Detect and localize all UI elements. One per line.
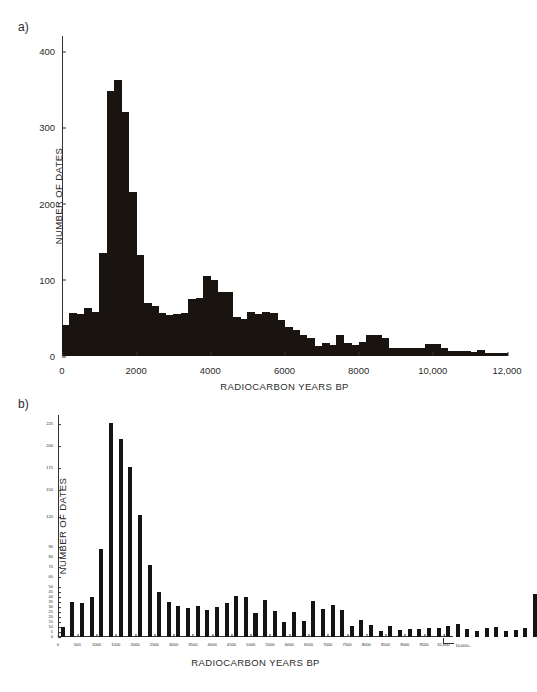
x-tick-mark — [347, 634, 348, 637]
x-tick-label: 8000 — [348, 356, 369, 376]
x-tick-mark — [62, 352, 63, 356]
x-tick-label: 9500 — [420, 637, 429, 647]
x-tick-mark — [359, 352, 360, 356]
x-tick-mark — [135, 634, 136, 637]
y-tick-mark — [58, 597, 61, 598]
x-tick-mark — [77, 634, 78, 637]
y-tick-label: 50 — [48, 585, 58, 589]
y-tick-label: 40 — [48, 595, 58, 599]
x-tick-mark — [270, 634, 271, 637]
x-tick-mark — [443, 634, 444, 637]
x-tick-label: 4000 — [208, 637, 217, 647]
x-tick-mark — [289, 634, 290, 637]
chart-b-plot-area: 0510152025303540455060708090120150175200… — [58, 415, 453, 637]
bar — [456, 624, 460, 637]
x-tick-mark — [116, 634, 117, 637]
bar — [388, 626, 392, 637]
x-tick-label: 4500 — [227, 637, 236, 647]
y-tick-mark — [58, 617, 61, 618]
x-tick-label: 7000 — [323, 637, 332, 647]
y-tick-mark — [58, 632, 61, 633]
chart-a-bars — [62, 36, 507, 356]
bar — [263, 600, 267, 637]
bar — [408, 629, 412, 637]
x-tick-mark — [154, 634, 155, 637]
x-tick-mark — [210, 352, 211, 356]
y-tick-label: 15 — [48, 620, 58, 624]
bar — [292, 612, 296, 637]
bar — [70, 602, 74, 637]
x-tick-mark — [507, 352, 508, 356]
bar — [176, 606, 180, 637]
x-tick-mark — [231, 634, 232, 637]
x-tick-label: 5500 — [265, 637, 274, 647]
y-tick-mark — [58, 612, 61, 613]
x-tick-mark — [136, 352, 137, 356]
bar — [437, 628, 441, 637]
y-tick-label: 60 — [48, 575, 58, 579]
overflow-bracket — [443, 638, 454, 644]
bar — [417, 629, 421, 637]
bar — [321, 609, 325, 637]
y-tick-mark — [62, 280, 66, 281]
bar — [167, 602, 171, 637]
y-tick-label: 5 — [51, 630, 58, 634]
bar — [148, 565, 152, 637]
y-tick-label: 10 — [48, 625, 58, 629]
bar — [225, 603, 229, 637]
x-tick-mark — [58, 634, 59, 637]
x-tick-label: 5000 — [246, 637, 255, 647]
overflow-label: 10,000+ — [455, 643, 470, 648]
x-tick-label: 0 — [59, 356, 64, 376]
y-tick-mark — [58, 607, 61, 608]
y-tick-label: 400 — [39, 46, 62, 57]
chart-b-x-axis-title: RADIOCARBON YEARS BP — [191, 657, 320, 668]
bar — [311, 601, 315, 637]
y-tick-label: 45 — [48, 590, 58, 594]
y-tick-label: 25 — [48, 610, 58, 614]
bar — [253, 613, 257, 637]
y-tick-mark — [58, 622, 61, 623]
x-tick-mark — [366, 634, 367, 637]
x-tick-mark — [424, 634, 425, 637]
y-tick-mark — [62, 51, 66, 52]
y-tick-mark — [58, 592, 61, 593]
x-tick-mark — [97, 634, 98, 637]
x-tick-mark — [433, 352, 434, 356]
y-tick-mark — [58, 446, 61, 447]
x-tick-mark — [405, 634, 406, 637]
bar — [485, 628, 489, 637]
x-tick-label: 500 — [74, 637, 81, 647]
bar — [302, 621, 306, 637]
x-tick-label: 7500 — [342, 637, 351, 647]
panel-b-label: b) — [18, 397, 29, 411]
x-tick-label: 2500 — [150, 637, 159, 647]
bar — [504, 631, 508, 637]
x-tick-mark — [308, 634, 309, 637]
bar — [331, 605, 335, 637]
y-tick-label: 225 — [46, 422, 58, 426]
bar — [350, 626, 354, 637]
y-tick-label: 20 — [48, 615, 58, 619]
y-tick-mark — [58, 602, 61, 603]
bar — [282, 622, 286, 637]
x-tick-mark — [174, 634, 175, 637]
x-tick-label: 1000 — [92, 637, 101, 647]
x-tick-label: 4000 — [200, 356, 221, 376]
x-tick-label: 8500 — [381, 637, 390, 647]
chart-b-y-axis-title: NUMBER OF DATES — [57, 478, 68, 575]
x-tick-mark — [212, 634, 213, 637]
bar — [244, 597, 248, 637]
panel-a-label: a) — [18, 20, 29, 34]
x-tick-label: 6000 — [285, 637, 294, 647]
y-tick-mark — [58, 577, 61, 578]
x-tick-label: 6000 — [274, 356, 295, 376]
y-tick-label: 175 — [46, 466, 58, 470]
panel-b: b) 0510152025303540455060708090120150175… — [0, 395, 519, 692]
y-tick-label: 30 — [48, 605, 58, 609]
y-tick-mark — [58, 627, 61, 628]
bar — [186, 608, 190, 637]
bar — [99, 549, 103, 637]
bar — [523, 628, 527, 637]
x-tick-label: 0 — [57, 637, 59, 647]
